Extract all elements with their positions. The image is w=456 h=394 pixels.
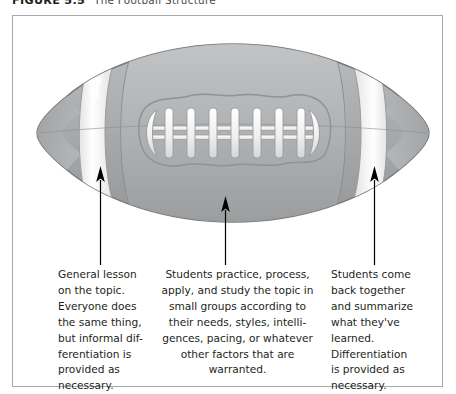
caption-line: General lesson <box>58 267 154 283</box>
caption-line: back together <box>331 283 431 299</box>
caption-line: Students practice, process, <box>156 267 319 283</box>
pointer-arrow-center <box>219 196 232 265</box>
caption-line: necessary. <box>331 378 431 394</box>
caption-line: small groups according to <box>156 299 319 315</box>
figure-caption: FIGURE 5.5The Football Structure <box>12 0 216 7</box>
figure-number: FIGURE 5.5 <box>12 0 85 7</box>
caption-line: Students come <box>331 267 431 283</box>
caption-line: learned. <box>331 331 431 347</box>
caption-line: Differentiation <box>331 347 431 363</box>
caption-line: ferentiation is <box>58 347 154 363</box>
caption-line: necessary. <box>58 378 154 394</box>
caption-line: their needs, styles, intelli- <box>156 315 319 331</box>
caption-block-center: Students practice, process, apply, and s… <box>156 267 319 378</box>
caption-line: the same thing, <box>58 315 154 331</box>
figure-title: The Football Structure <box>94 0 216 6</box>
caption-line: is provided as <box>331 362 431 378</box>
caption-line: warranted. <box>156 362 319 378</box>
caption-line: but informal dif- <box>58 331 154 347</box>
caption-block-right: Students come back together and summariz… <box>331 267 431 394</box>
pointer-arrow-left <box>94 166 107 265</box>
pointer-arrow-right <box>368 166 381 265</box>
caption-line: on the topic. <box>58 283 154 299</box>
caption-line: gences, pacing, or whatever <box>156 331 319 347</box>
caption-line: what they've <box>331 315 431 331</box>
caption-line: Everyone does <box>58 299 154 315</box>
caption-line: provided as <box>58 362 154 378</box>
caption-line: and summarize <box>331 299 431 315</box>
caption-line: apply, and study the topic in <box>156 283 319 299</box>
caption-line: other factors that are <box>156 347 319 363</box>
figure-frame: General lesson on the topic. Everyone do… <box>12 15 443 387</box>
caption-block-left: General lesson on the topic. Everyone do… <box>58 267 154 394</box>
